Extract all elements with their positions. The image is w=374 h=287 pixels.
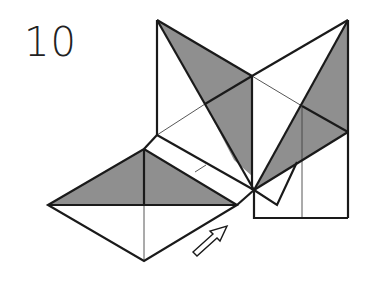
shaded-regions xyxy=(48,20,348,205)
origami-diagram xyxy=(0,0,374,287)
push-arrow-icon xyxy=(193,226,227,256)
shaded-diamond-top xyxy=(48,149,237,205)
